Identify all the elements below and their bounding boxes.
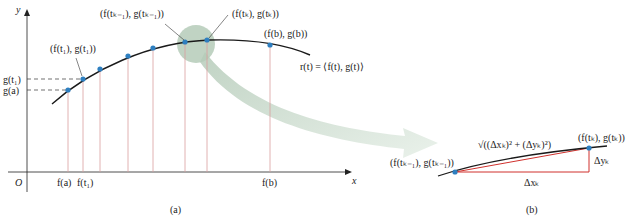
origin-label: O [15, 177, 22, 188]
y-guides [27, 79, 83, 90]
curve-label: r(t) = ⟨f(t), g(t)⟩ [300, 61, 364, 73]
caption-a: (a) [170, 204, 181, 216]
x-tick-f-a: f(a) [57, 177, 71, 189]
label-b-dy: Δyₖ [594, 155, 609, 166]
label-b-left-point: (f(tₖ₋₁), g(tₖ₋₁)) [390, 157, 454, 169]
label-b-right-point: (f(tₖ), g(tₖ)) [578, 132, 625, 144]
caption-b: (b) [526, 204, 538, 216]
x-tick-f-b: f(b) [262, 177, 277, 189]
y-axis-label: y [15, 4, 21, 15]
label-point-b: (f(b), g(b)) [264, 28, 307, 40]
label-point-tk: (f(tₖ), g(tₖ)) [232, 8, 279, 20]
y-tick-g-a: g(a) [3, 85, 19, 97]
arc-length-diagram: y x O (f(t₁), g(t₁)) (f(tₖ₋₁), g(tₖ₋ [0, 0, 626, 217]
label-b-dx: Δxₖ [524, 177, 539, 188]
drop-lines [68, 40, 270, 172]
label-b-hypotenuse: √((Δxₖ)² + (Δyₖ)²) [478, 139, 551, 151]
x-axis-label: x [351, 175, 357, 186]
label-point-tk-minus-1: (f(tₖ₋₁), g(tₖ₋₁)) [100, 8, 164, 20]
label-point-t1: (f(t₁), g(t₁)) [50, 43, 96, 55]
highlight-circle [177, 25, 215, 63]
x-tick-f-t1: f(t₁) [77, 177, 93, 189]
